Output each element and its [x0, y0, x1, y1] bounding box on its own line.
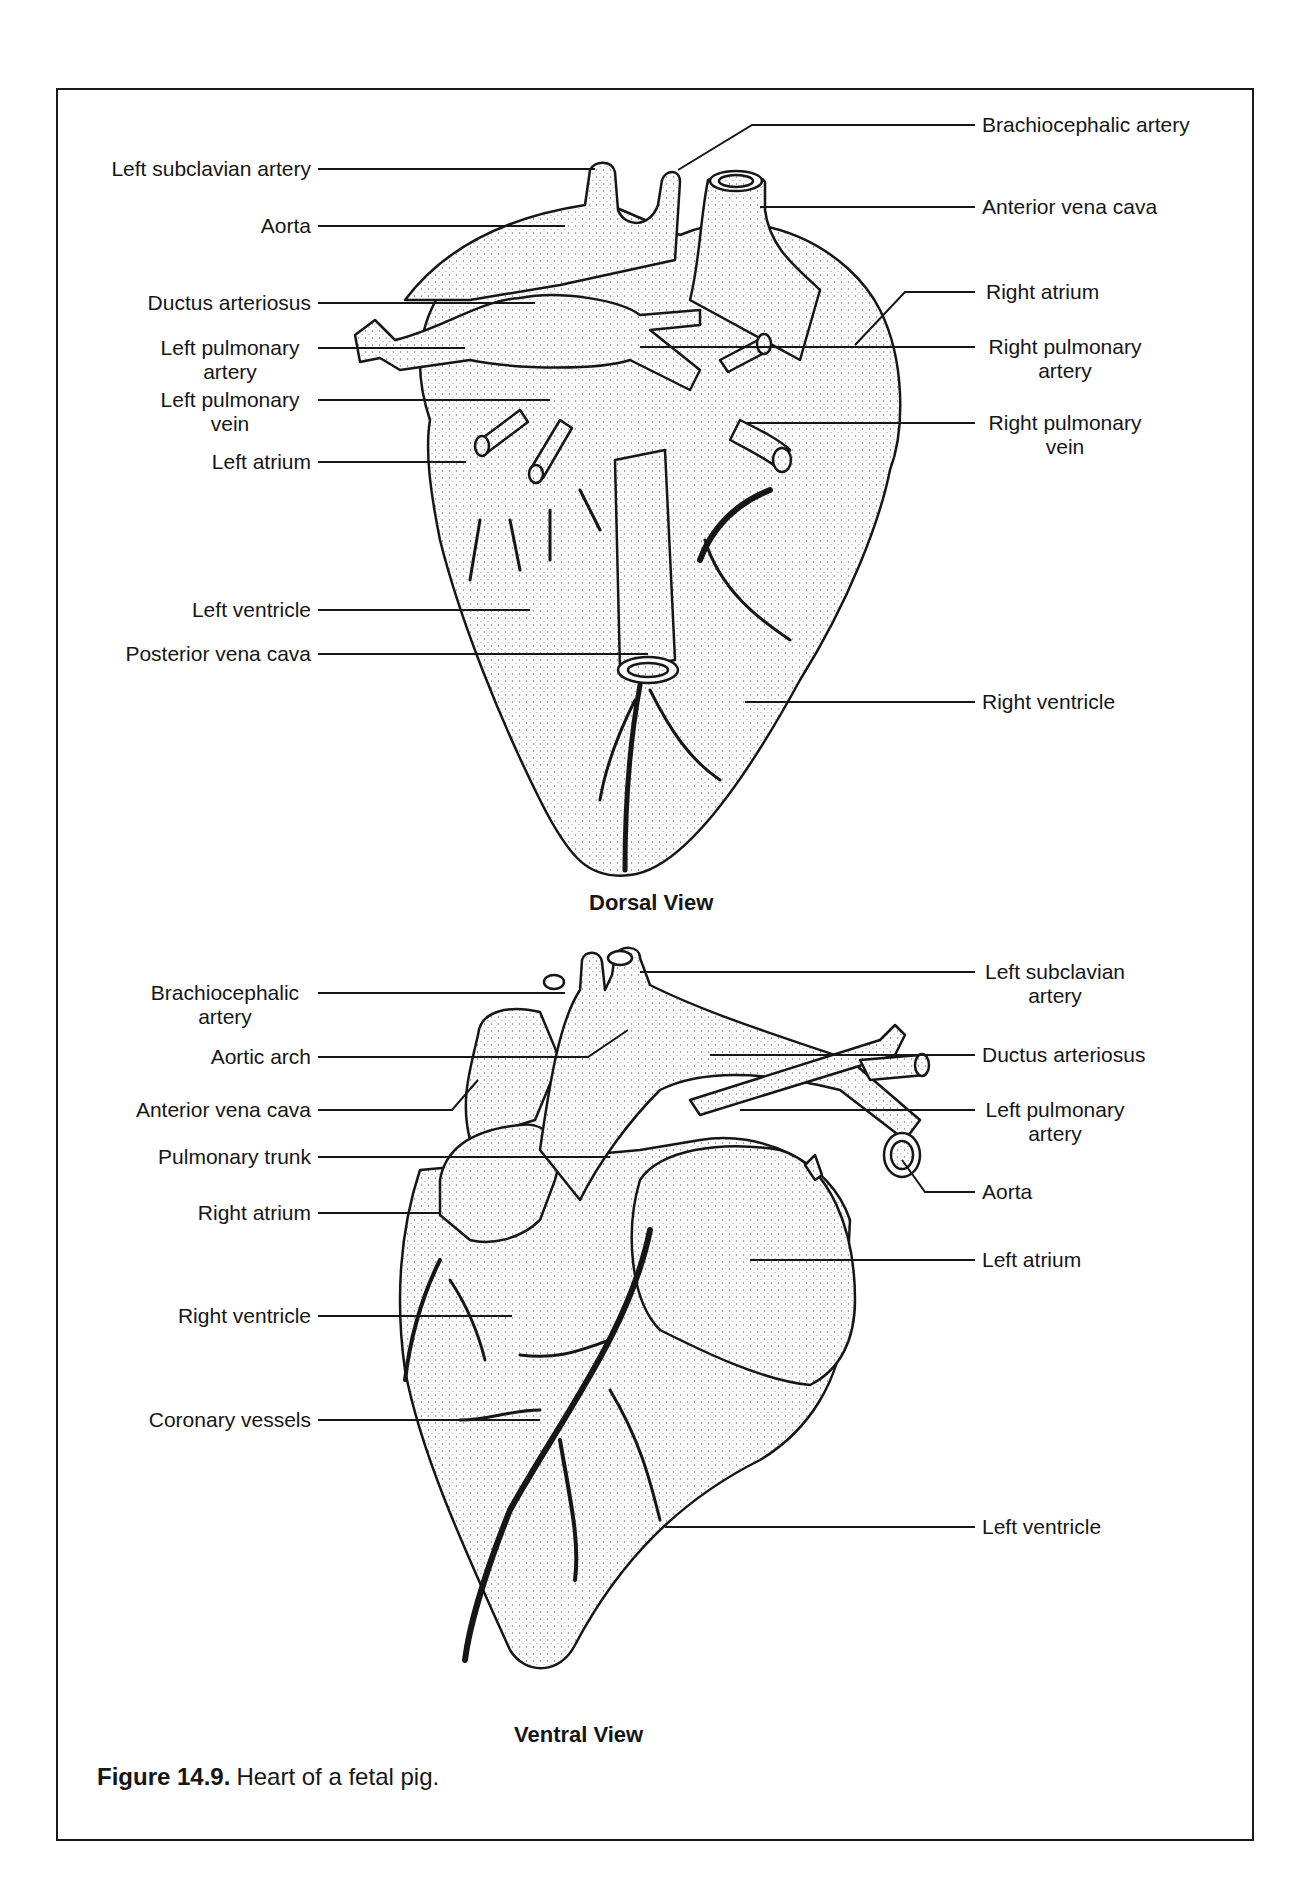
label-dorsal-left-pulmonary-vein: Left pulmonary vein: [150, 388, 310, 436]
dorsal-view-title: Dorsal View: [589, 890, 713, 916]
label-ventral-ductus-arteriosus: Ductus arteriosus: [982, 1043, 1145, 1067]
label-line-1: Right pulmonary: [980, 335, 1150, 359]
label-dorsal-aorta: Aorta: [261, 214, 311, 238]
label-ventral-pulmonary-trunk: Pulmonary trunk: [158, 1145, 311, 1169]
label-dorsal-left-ventricle: Left ventricle: [192, 598, 311, 622]
label-dorsal-right-pulmonary-artery: Right pulmonary artery: [980, 335, 1150, 383]
figure-number: Figure 14.9.: [97, 1763, 230, 1790]
label-line-1: Left pulmonary: [975, 1098, 1135, 1122]
heart-illustration: [0, 0, 1297, 1885]
label-dorsal-brachiocephalic-artery: Brachiocephalic artery: [982, 113, 1190, 137]
label-ventral-aortic-arch: Aortic arch: [211, 1045, 311, 1069]
label-dorsal-left-subclavian-artery: Left subclavian artery: [111, 157, 311, 181]
label-ventral-aorta: Aorta: [982, 1180, 1032, 1204]
label-dorsal-left-atrium: Left atrium: [212, 450, 311, 474]
label-line-1: Left subclavian: [975, 960, 1135, 984]
ventral-view-title: Ventral View: [514, 1722, 643, 1748]
label-line-2: artery: [975, 984, 1135, 1008]
label-dorsal-anterior-vena-cava: Anterior vena cava: [982, 195, 1157, 219]
label-dorsal-right-pulmonary-vein: Right pulmonary vein: [980, 411, 1150, 459]
label-line-2: vein: [150, 412, 310, 436]
dorsal-posterior-vena-cava: [615, 450, 675, 670]
label-ventral-brachiocephalic-artery: Brachiocephalic artery: [135, 981, 315, 1029]
figure-caption-text: Heart of a fetal pig.: [236, 1763, 439, 1790]
label-ventral-anterior-vena-cava: Anterior vena cava: [136, 1098, 311, 1122]
label-ventral-coronary-vessels: Coronary vessels: [149, 1408, 311, 1432]
label-line-1: Brachiocephalic: [135, 981, 315, 1005]
label-ventral-left-pulmonary-artery: Left pulmonary artery: [975, 1098, 1135, 1146]
label-line-1: Right pulmonary: [980, 411, 1150, 435]
label-dorsal-left-pulmonary-artery: Left pulmonary artery: [150, 336, 310, 384]
label-ventral-right-ventricle: Right ventricle: [178, 1304, 311, 1328]
label-ventral-left-ventricle: Left ventricle: [982, 1515, 1101, 1539]
figure-caption: Figure 14.9.Heart of a fetal pig.: [97, 1763, 439, 1791]
label-ventral-left-atrium: Left atrium: [982, 1248, 1081, 1272]
label-ventral-right-atrium: Right atrium: [198, 1201, 311, 1225]
label-line-1: Left pulmonary: [150, 336, 310, 360]
label-dorsal-right-atrium: Right atrium: [986, 280, 1099, 304]
label-line-2: artery: [975, 1122, 1135, 1146]
label-dorsal-posterior-vena-cava: Posterior vena cava: [125, 642, 311, 666]
label-line-1: Left pulmonary: [150, 388, 310, 412]
label-line-2: artery: [980, 359, 1150, 383]
label-dorsal-ductus-arteriosus: Ductus arteriosus: [148, 291, 311, 315]
label-ventral-left-subclavian-artery: Left subclavian artery: [975, 960, 1135, 1008]
label-line-2: artery: [135, 1005, 315, 1029]
label-dorsal-right-ventricle: Right ventricle: [982, 690, 1115, 714]
label-line-2: artery: [150, 360, 310, 384]
label-line-2: vein: [980, 435, 1150, 459]
